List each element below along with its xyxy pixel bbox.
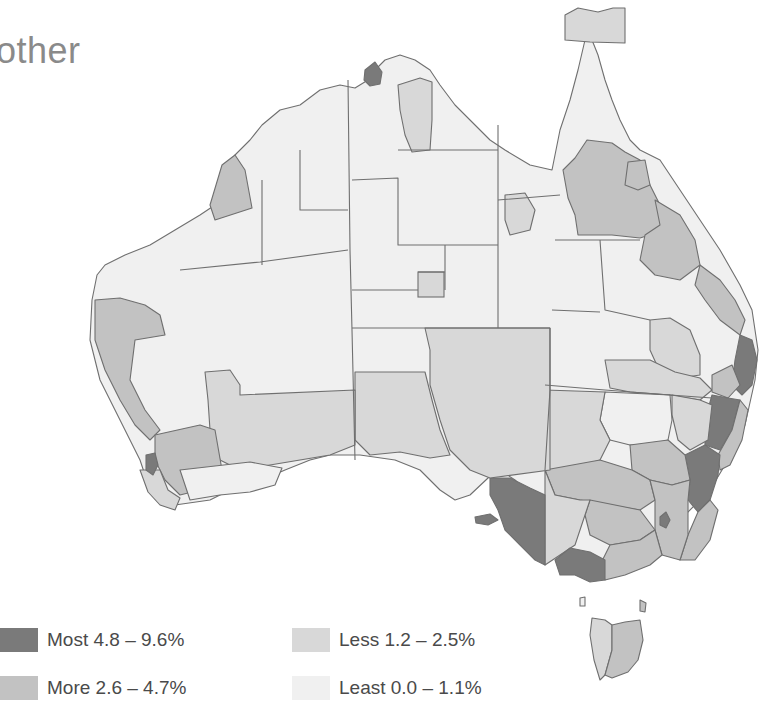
legend-label-less: Less 1.2 – 2.5% <box>339 629 475 651</box>
region-kangaroo-island[interactable] <box>475 514 498 525</box>
legend: Most 4.8 – 9.6% More 2.6 – 4.7% Less 1.2… <box>0 620 600 710</box>
region-flinders-island[interactable] <box>640 600 646 612</box>
legend-label-more: More 2.6 – 4.7% <box>47 677 186 699</box>
map-title: other <box>0 30 81 72</box>
legend-swatch-least <box>292 676 330 700</box>
legend-swatch-less <box>292 628 330 652</box>
legend-item-least: Least 0.0 – 1.1% <box>292 676 482 700</box>
legend-item-less: Less 1.2 – 2.5% <box>292 628 475 652</box>
legend-swatch-most <box>0 628 38 652</box>
region-cairns-coast[interactable] <box>625 160 650 190</box>
region-king-island[interactable] <box>580 597 585 606</box>
region-orana[interactable] <box>545 390 610 470</box>
legend-label-most: Most 4.8 – 9.6% <box>47 629 184 651</box>
region-se-south-australia[interactable] <box>490 478 545 565</box>
region-alice-springs[interactable] <box>418 272 444 297</box>
legend-item-most: Most 4.8 – 9.6% <box>0 628 184 652</box>
legend-swatch-more <box>0 676 38 700</box>
australia-map <box>0 0 773 712</box>
region-central-west-nsw[interactable] <box>600 392 672 445</box>
legend-label-least: Least 0.0 – 1.1% <box>339 677 482 699</box>
region-torres-strait[interactable] <box>565 8 625 43</box>
region-esperance[interactable] <box>180 462 282 500</box>
legend-item-more: More 2.6 – 4.7% <box>0 676 186 700</box>
